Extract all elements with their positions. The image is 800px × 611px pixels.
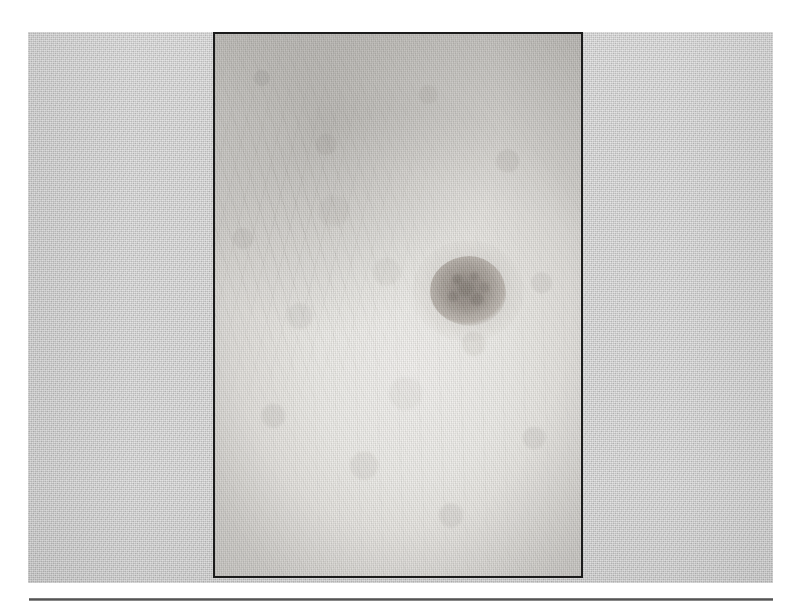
skin-base-layer <box>215 34 581 576</box>
figure-root <box>0 0 800 611</box>
clinical-photo <box>213 32 583 578</box>
figure-divider-rule <box>29 598 773 601</box>
